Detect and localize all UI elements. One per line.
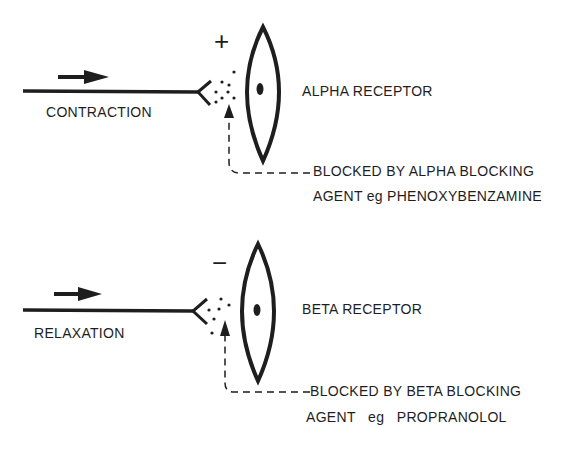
relaxation-label: RELAXATION — [34, 325, 125, 341]
direction-arrow-icon — [54, 287, 102, 301]
receptor-nucleus-icon — [257, 83, 264, 95]
nerve-fiber — [23, 91, 198, 92]
receptor-nucleus-icon — [254, 304, 261, 316]
alpha-blocked-line2: AGENT eg PHENOXYBENZAMINE — [313, 188, 542, 204]
block-indicator-arrow-icon — [224, 104, 310, 173]
nerve-ending-icon — [198, 81, 211, 105]
beta-blocked-line1: BLOCKED BY BETA BLOCKING — [310, 383, 521, 399]
contraction-label: CONTRACTION — [46, 104, 152, 120]
beta-blocked-line2: AGENT eg PROPRANOLOL — [306, 409, 507, 425]
block-indicator-arrow-icon — [220, 320, 310, 392]
nerve-fiber — [23, 310, 193, 311]
nerve-ending-icon — [193, 299, 207, 324]
alpha-sign: + — [214, 26, 229, 57]
beta-sign: − — [212, 248, 227, 279]
beta-receptor-label: BETA RECEPTOR — [302, 301, 422, 317]
direction-arrow-icon — [58, 70, 109, 84]
alpha-receptor-label: ALPHA RECEPTOR — [302, 83, 433, 99]
transmitter-dots-icon — [214, 70, 235, 103]
alpha-blocked-line1: BLOCKED BY ALPHA BLOCKING — [313, 163, 534, 179]
alpha-section — [23, 27, 310, 173]
alpha-receptor-cell-icon — [247, 27, 279, 161]
beta-section — [23, 244, 310, 392]
